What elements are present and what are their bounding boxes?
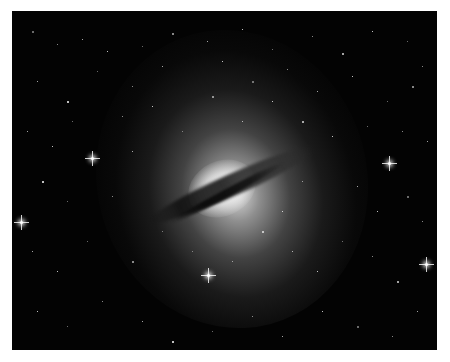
star bbox=[57, 44, 58, 45]
star bbox=[207, 41, 208, 42]
star bbox=[387, 101, 388, 102]
star bbox=[422, 221, 423, 222]
star bbox=[302, 121, 304, 123]
star bbox=[152, 106, 153, 107]
star bbox=[37, 81, 38, 82]
star bbox=[357, 326, 359, 328]
star bbox=[352, 76, 353, 77]
bright-star bbox=[91, 157, 94, 160]
star bbox=[332, 136, 333, 137]
star bbox=[272, 49, 273, 50]
star bbox=[107, 51, 108, 52]
star bbox=[132, 261, 134, 263]
star bbox=[172, 341, 174, 343]
star bbox=[302, 181, 303, 182]
star bbox=[407, 41, 408, 42]
star bbox=[422, 66, 423, 67]
star bbox=[377, 211, 378, 212]
star bbox=[67, 101, 69, 103]
star bbox=[252, 316, 253, 317]
star bbox=[67, 326, 68, 327]
star bbox=[412, 86, 414, 88]
star bbox=[222, 61, 223, 62]
star bbox=[112, 196, 113, 197]
star bbox=[122, 116, 123, 117]
star bbox=[252, 81, 254, 83]
star bbox=[417, 311, 418, 312]
star bbox=[317, 91, 318, 92]
star bbox=[162, 231, 163, 232]
star bbox=[317, 271, 318, 272]
star bbox=[287, 69, 288, 70]
star bbox=[342, 241, 343, 242]
star bbox=[212, 96, 214, 98]
star bbox=[142, 321, 143, 322]
star bbox=[397, 281, 399, 283]
galaxy-photo bbox=[12, 11, 437, 350]
star bbox=[102, 301, 103, 302]
bright-star bbox=[425, 263, 428, 266]
star bbox=[282, 336, 283, 337]
star bbox=[142, 46, 143, 47]
bright-star bbox=[388, 162, 391, 165]
star bbox=[312, 36, 313, 37]
star bbox=[52, 146, 53, 147]
star bbox=[162, 66, 163, 67]
star bbox=[242, 29, 243, 30]
star bbox=[372, 31, 373, 32]
star bbox=[262, 231, 264, 233]
star bbox=[342, 53, 344, 55]
star bbox=[172, 33, 174, 35]
star bbox=[322, 311, 323, 312]
star bbox=[192, 251, 193, 252]
star bbox=[37, 311, 38, 312]
star bbox=[87, 241, 88, 242]
star bbox=[97, 71, 98, 72]
star bbox=[367, 126, 368, 127]
star bbox=[72, 121, 73, 122]
star bbox=[42, 181, 44, 183]
star bbox=[402, 131, 403, 132]
star bbox=[282, 211, 283, 212]
star bbox=[272, 101, 273, 102]
star bbox=[182, 131, 183, 132]
star bbox=[132, 151, 133, 152]
star bbox=[132, 86, 133, 87]
star bbox=[292, 251, 293, 252]
star bbox=[57, 271, 58, 272]
star bbox=[32, 251, 33, 252]
star bbox=[242, 121, 243, 122]
star bbox=[372, 256, 373, 257]
star bbox=[357, 186, 358, 187]
star bbox=[212, 331, 213, 332]
bright-star bbox=[20, 221, 23, 224]
star bbox=[232, 261, 233, 262]
star bbox=[407, 196, 409, 198]
star bbox=[67, 201, 68, 202]
bright-star bbox=[207, 274, 210, 277]
star bbox=[82, 39, 83, 40]
star bbox=[427, 141, 428, 142]
star bbox=[27, 131, 28, 132]
star bbox=[392, 336, 393, 337]
star bbox=[32, 31, 34, 33]
